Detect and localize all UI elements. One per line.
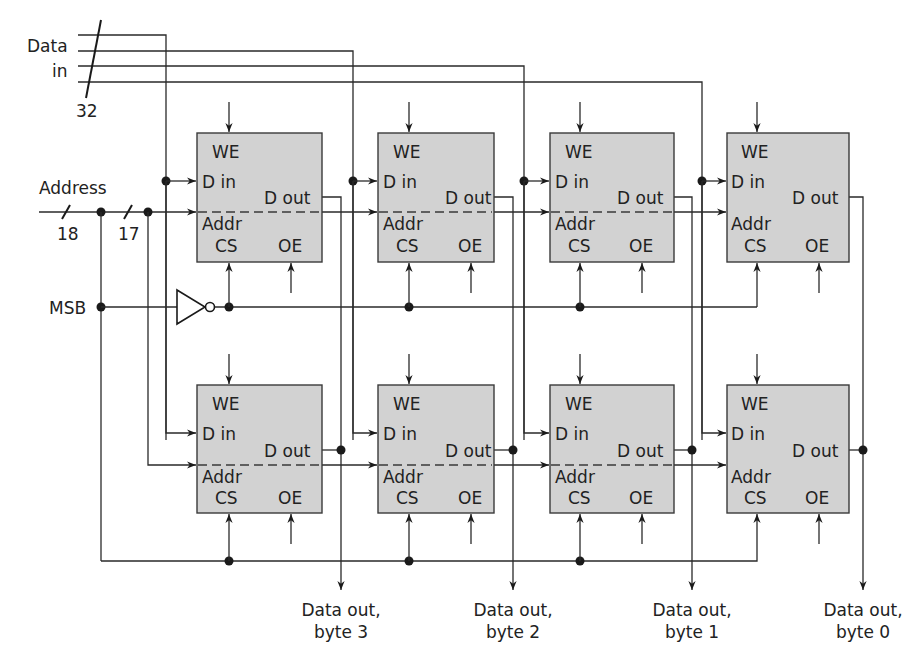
pin-addr: Addr (555, 467, 595, 487)
pin-cs: CS (215, 236, 238, 256)
output-byte2-line2: byte 2 (486, 622, 540, 642)
address-label: Address (39, 178, 107, 198)
pin-oe: OE (458, 488, 482, 508)
pin-we: WE (565, 142, 593, 162)
pin-dout: D out (264, 188, 311, 208)
pin-addr: Addr (731, 467, 771, 487)
ram-chip-top-byte1: WE D in D out Addr CS OE (550, 133, 674, 262)
data-in-label-2: in (52, 61, 68, 81)
pin-oe: OE (805, 488, 829, 508)
output-byte1-line1: Data out, (652, 600, 731, 620)
pin-din: D in (202, 424, 236, 444)
pin-we: WE (393, 394, 421, 414)
pin-oe: OE (629, 488, 653, 508)
pin-we: WE (393, 142, 421, 162)
output-byte3-line1: Data out, (301, 600, 380, 620)
pin-dout: D out (445, 188, 492, 208)
pin-din: D in (202, 172, 236, 192)
pin-oe: OE (458, 236, 482, 256)
output-byte0-line2: byte 0 (836, 622, 890, 642)
ram-chip-bottom-byte1: WE D in D out Addr CS OE (550, 385, 674, 513)
pin-oe: OE (629, 236, 653, 256)
pin-oe: OE (278, 488, 302, 508)
pin-dout: D out (792, 188, 839, 208)
pin-cs: CS (568, 236, 591, 256)
pin-din: D in (383, 172, 417, 192)
output-byte2-line1: Data out, (473, 600, 552, 620)
pin-dout: D out (617, 441, 664, 461)
pin-cs: CS (568, 488, 591, 508)
pin-cs: CS (396, 488, 419, 508)
pin-we: WE (741, 394, 769, 414)
ram-chip-top-byte0: WE D in D out Addr CS OE (727, 133, 849, 262)
pin-addr: Addr (383, 467, 423, 487)
pin-addr: Addr (555, 214, 595, 234)
pin-din: D in (383, 424, 417, 444)
ram-chip-bottom-byte3: WE D in D out Addr CS OE (197, 385, 322, 513)
pin-dout: D out (617, 188, 664, 208)
ram-chip-bottom-byte0: WE D in D out Addr CS OE (727, 385, 849, 513)
pin-we: WE (741, 142, 769, 162)
ram-chip-top-byte2: WE D in D out Addr CS OE (378, 133, 494, 262)
pin-dout: D out (445, 441, 492, 461)
inverter-icon (177, 290, 205, 324)
address-width: 18 (57, 224, 79, 244)
pin-oe: OE (278, 236, 302, 256)
pin-dout: D out (264, 441, 311, 461)
output-labels: Data out, byte 3 Data out, byte 2 Data o… (301, 600, 902, 642)
pin-din: D in (731, 424, 765, 444)
pin-dout: D out (792, 441, 839, 461)
pin-din: D in (731, 172, 765, 192)
memory-organization-diagram: Data in 32 Address 18 17 (0, 0, 919, 664)
pin-cs: CS (744, 488, 767, 508)
pin-we: WE (212, 394, 240, 414)
pin-din: D in (555, 424, 589, 444)
pin-addr: Addr (202, 467, 242, 487)
pin-addr: Addr (383, 214, 423, 234)
pin-addr: Addr (731, 214, 771, 234)
address-chip-width: 17 (118, 224, 140, 244)
output-byte0-line1: Data out, (823, 600, 902, 620)
data-in-label: Data (27, 36, 68, 56)
output-byte1-line2: byte 1 (665, 622, 719, 642)
pin-oe: OE (805, 236, 829, 256)
pin-we: WE (212, 142, 240, 162)
data-in-width: 32 (76, 101, 98, 121)
pin-cs: CS (744, 236, 767, 256)
output-byte3-line2: byte 3 (314, 622, 368, 642)
bus-width-slash (86, 20, 101, 98)
pin-din: D in (555, 172, 589, 192)
ram-chip-top-byte3: WE D in D out Addr CS OE (197, 133, 322, 262)
msb-label: MSB (49, 298, 86, 318)
pin-addr: Addr (202, 214, 242, 234)
pin-we: WE (565, 394, 593, 414)
ram-chip-bottom-byte2: WE D in D out Addr CS OE (378, 385, 494, 513)
pin-cs: CS (215, 488, 238, 508)
pin-cs: CS (396, 236, 419, 256)
